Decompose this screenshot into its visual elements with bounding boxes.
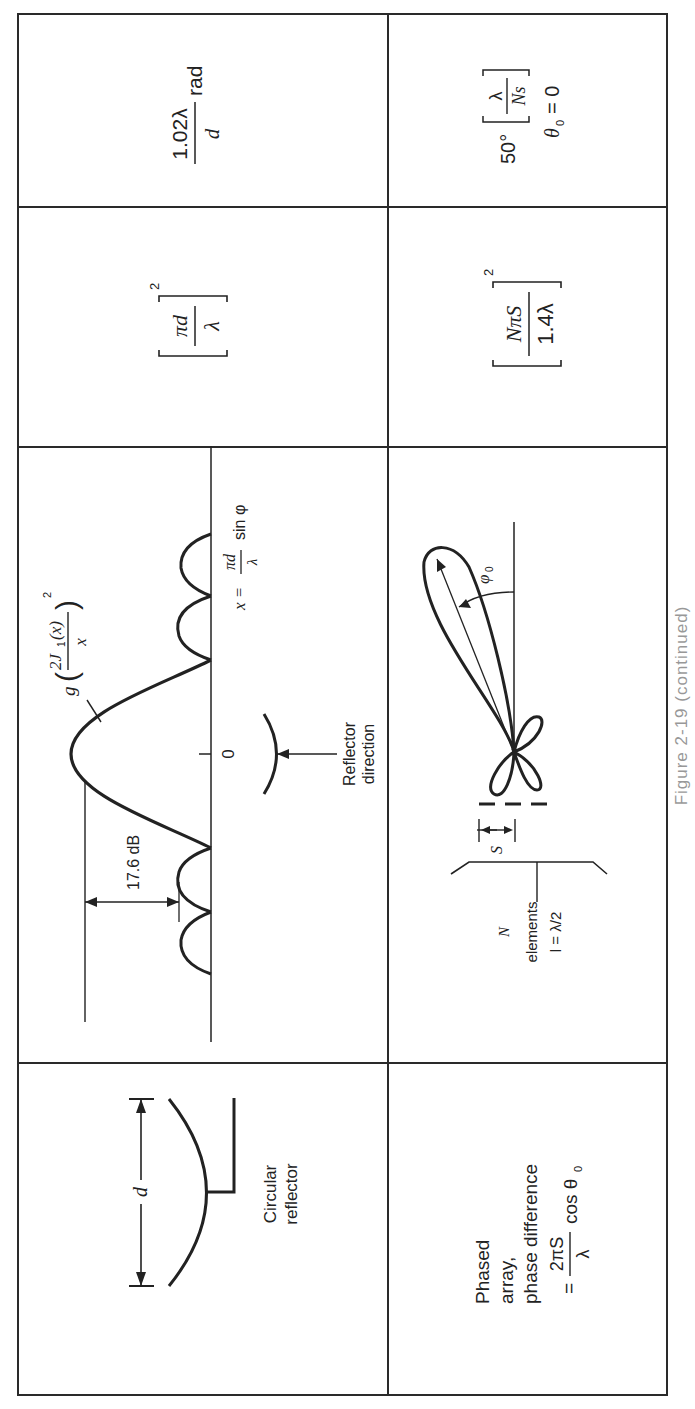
pattern-fn-subscript: 1 <box>56 641 67 647</box>
reflector-direction-label-2: direction <box>360 724 377 784</box>
steering-angle-sub: 0 <box>484 566 495 572</box>
table-row-circular-reflector: d Circular reflector <box>18 14 388 1395</box>
cell-beamwidth-circular-reflector: 1.02λ d rad <box>18 14 388 207</box>
cell-element-circular-reflector: d Circular reflector <box>18 1063 388 1395</box>
sidelobe-level-label: 17.6 dB <box>125 835 142 890</box>
gain-exponent: 2 <box>481 269 496 276</box>
beamwidth-denominator: d <box>200 128 224 139</box>
pattern-fn-prefix: g <box>58 687 79 697</box>
phase-formula-sub: 0 <box>572 1166 584 1172</box>
circular-aperture-pattern-plot: 17.6 dB 0 g ( 2J 1 (x) x ) 2 <box>19 446 389 1062</box>
beamwidth-unit: rad <box>183 66 206 96</box>
pattern-fn-numerator: 2J <box>46 653 65 671</box>
phased-array-description: Phased array, phase difference = 2πS λ c… <box>389 1062 668 1394</box>
beamwidth-numerator: 1.02λ <box>168 108 191 160</box>
phase-formula-rhs: cos θ <box>560 1179 581 1224</box>
x-definition-lhs: x = <box>230 587 249 611</box>
antenna-comparison-table: d Circular reflector <box>17 13 668 1396</box>
gain-exponent: 2 <box>147 283 162 290</box>
cell-gain-circular-reflector: πd λ 2 <box>18 207 388 447</box>
table-row-phased-array: Phased array, phase difference = 2πS λ c… <box>388 14 667 1395</box>
gain-denominator: 1.4λ <box>533 303 558 345</box>
element-label-line-1: Circular <box>261 1164 280 1223</box>
beamwidth-formula-circular: 1.02λ d rad <box>19 13 389 206</box>
phased-array-pattern-plot: φ 0 S <box>389 446 668 1062</box>
elements-label-n: N <box>496 926 512 938</box>
gain-numerator: πd <box>167 314 192 337</box>
pattern-fn-exponent: 2 <box>41 592 53 598</box>
gain-formula-phased: NπS 1.4λ 2 <box>389 206 668 446</box>
elements-label-length: l = λ/2 <box>547 912 564 952</box>
pattern-fn-close-paren: ) <box>50 600 83 610</box>
gain-denominator: λ <box>199 321 224 332</box>
cell-pattern-circular-reflector: 17.6 dB 0 g ( 2J 1 (x) x ) 2 <box>18 447 388 1063</box>
figure-caption: Figure 2-19 (continued) <box>672 15 692 1396</box>
phase-formula-num: 2πS <box>547 1237 567 1271</box>
x-definition-rhs: sin φ <box>231 505 248 540</box>
cell-gain-phased-array: NπS 1.4λ 2 <box>388 207 667 447</box>
pattern-fn-denominator: x <box>71 638 90 647</box>
x-definition-num: πd <box>221 553 238 570</box>
beamwidth-prefix: 50° <box>497 134 519 164</box>
gain-numerator: NπS <box>501 306 526 344</box>
circular-reflector-diagram: d Circular reflector <box>19 1062 389 1394</box>
cell-beamwidth-phased-array: 50° λ Ns θ 0 = 0 <box>388 14 667 207</box>
beamwidth-condition-rhs: = 0 <box>541 86 563 114</box>
beamwidth-condition-sub: 0 <box>554 120 566 126</box>
pattern-fn-arg: (x) <box>46 621 65 640</box>
steering-angle-label: φ <box>474 575 493 584</box>
phase-formula-eq: = <box>558 1283 579 1294</box>
x-definition-den: λ <box>244 558 260 566</box>
beamwidth-formula-phased: 50° λ Ns θ 0 = 0 <box>389 13 668 206</box>
element-label-line-1: Phased <box>472 1240 493 1304</box>
phase-formula-den: λ <box>573 1250 593 1259</box>
beamwidth-numerator: λ <box>486 92 506 101</box>
cell-pattern-phased-array: φ 0 S <box>388 447 667 1063</box>
reflector-direction-label-1: Reflector <box>341 721 358 786</box>
element-label-line-2: reflector <box>282 1163 301 1225</box>
beamwidth-condition: θ <box>541 128 563 138</box>
element-label-line-2: array, <box>496 1257 517 1304</box>
cell-element-phased-array: Phased array, phase difference = 2πS λ c… <box>388 1063 667 1395</box>
origin-label: 0 <box>219 749 238 758</box>
antenna-table-page: d Circular reflector <box>17 15 695 1396</box>
dimension-d-label: d <box>129 1186 151 1197</box>
beamwidth-denominator: Ns <box>509 86 529 106</box>
elements-label-word: elements <box>523 902 540 963</box>
gain-formula-circular: πd λ 2 <box>19 206 389 446</box>
pattern-fn-open-paren: ( <box>50 672 83 682</box>
spacing-label: S <box>488 846 505 854</box>
element-label-line-3: phase difference <box>520 1164 541 1304</box>
